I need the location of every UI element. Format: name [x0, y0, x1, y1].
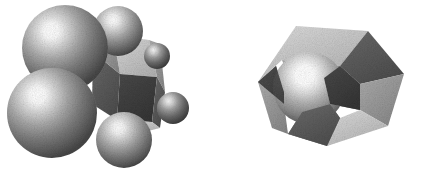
- sphere-small-right-lower: [157, 92, 189, 124]
- left-model[interactable]: [7, 5, 189, 168]
- sphere-large-lower-left: [7, 68, 97, 158]
- right-model[interactable]: [258, 26, 404, 146]
- sphere-small-right-upper: [144, 43, 170, 69]
- sphere-medium-lower-center: [96, 112, 152, 168]
- figure-canvas: Two grayscale rendered models: a sphere …: [0, 0, 421, 173]
- figure-illustration: [0, 0, 421, 173]
